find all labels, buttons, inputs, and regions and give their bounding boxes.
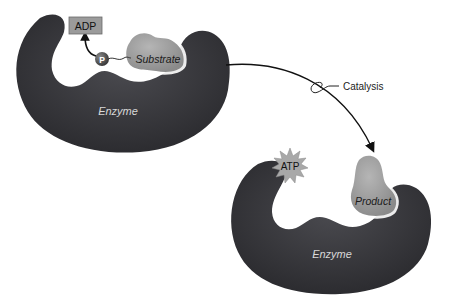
catalysis-arrow <box>226 64 372 148</box>
enzyme-after-shape <box>231 161 431 295</box>
catalysis-label: Catalysis <box>343 81 384 92</box>
enzyme-after-label: Enzyme <box>312 248 352 260</box>
adp-box: ADP <box>69 17 102 34</box>
product-label: Product <box>355 195 392 207</box>
substrate: Substrate <box>124 31 187 75</box>
enzyme-before <box>16 14 229 152</box>
substrate-label: Substrate <box>136 53 181 65</box>
adp-label: ADP <box>75 20 97 32</box>
product: Product <box>349 153 399 219</box>
atp-label: ATP <box>281 161 300 172</box>
enzyme-diagram: Substrate P ADP Enzyme Catalysis Product… <box>0 0 453 301</box>
enzyme-shape <box>16 14 229 152</box>
phosphate: P <box>95 52 109 66</box>
phosphate-label: P <box>99 55 105 65</box>
phosphate-release-arrow <box>85 36 96 56</box>
enzyme-after <box>231 161 431 295</box>
enzyme-before-label: Enzyme <box>98 105 138 117</box>
